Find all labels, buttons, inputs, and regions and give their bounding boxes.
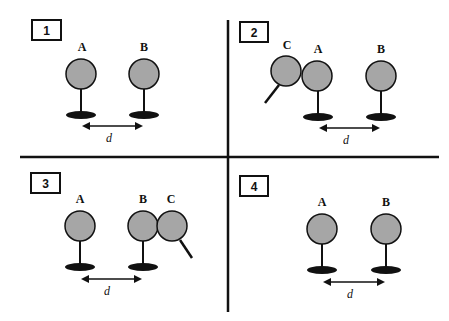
distance-label: d <box>106 131 113 145</box>
label-c: C <box>283 38 292 52</box>
pendulum-b <box>129 59 159 119</box>
distance-label: d <box>104 284 111 298</box>
panel-1: 1 A B d <box>32 20 159 145</box>
panel-number: 2 <box>251 26 258 40</box>
distance-label: d <box>347 287 354 301</box>
four-panel-diagram: 1 A B d 2 C A B <box>0 0 449 321</box>
panel-2: 2 C A B d <box>240 22 396 147</box>
striker-c <box>265 56 301 103</box>
panel-4: 4 A B d <box>240 176 401 301</box>
pendulum-a <box>65 211 95 271</box>
pendulum-a <box>307 214 337 274</box>
label-b: B <box>140 40 148 54</box>
label-b: B <box>377 42 385 56</box>
panel-3: 3 A B C d <box>31 173 192 298</box>
label-b: B <box>382 195 390 209</box>
label-a: A <box>78 40 87 54</box>
pendulum-b <box>128 211 158 271</box>
label-c: C <box>167 192 176 206</box>
panel-number: 3 <box>42 177 49 191</box>
pendulum-a <box>66 59 96 119</box>
panel-number: 4 <box>251 180 258 194</box>
pendulum-b <box>366 61 396 121</box>
pendulum-a <box>302 61 333 121</box>
panel-number: 1 <box>43 24 50 38</box>
pendulum-b <box>371 214 401 274</box>
distance-label: d <box>343 133 350 147</box>
label-a: A <box>318 195 327 209</box>
striker-c <box>157 211 192 258</box>
label-b: B <box>139 192 147 206</box>
label-a: A <box>314 42 323 56</box>
label-a: A <box>76 192 85 206</box>
